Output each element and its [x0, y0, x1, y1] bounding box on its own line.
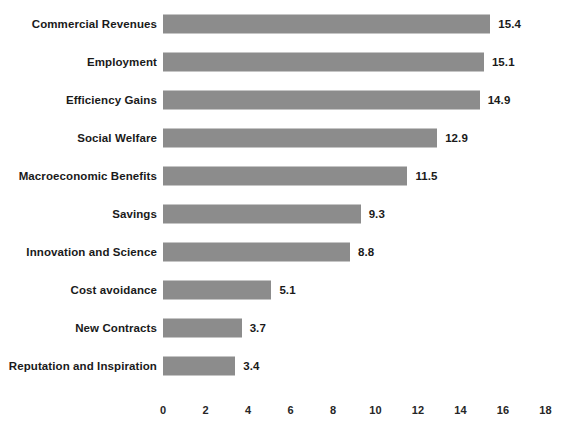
bar-row: Social Welfare12.9 — [0, 119, 585, 157]
bar-row: Innovation and Science8.8 — [0, 233, 585, 271]
bar — [163, 319, 242, 338]
bar-row: Cost avoidance5.1 — [0, 271, 585, 309]
bar — [163, 243, 350, 262]
bar — [163, 357, 235, 376]
bar-row: New Contracts3.7 — [0, 309, 585, 347]
bar-row: Savings9.3 — [0, 195, 585, 233]
x-axis-tick-label: 14 — [454, 404, 466, 416]
category-label: Social Welfare — [77, 132, 157, 144]
category-label: Commercial Revenues — [32, 18, 157, 30]
bar-fill — [163, 205, 361, 224]
bar — [163, 15, 490, 34]
bar — [163, 91, 480, 110]
bar-fill — [163, 167, 407, 186]
bar-chart: Commercial Revenues15.4Employment15.1Eff… — [0, 0, 585, 442]
category-label: Cost avoidance — [71, 284, 157, 296]
bar-row: Reputation and Inspiration3.4 — [0, 347, 585, 385]
bar-row: Commercial Revenues15.4 — [0, 5, 585, 43]
bar — [163, 281, 271, 300]
bar-value-label: 15.4 — [498, 18, 521, 30]
bar-fill — [163, 243, 350, 262]
bar — [163, 53, 484, 72]
bar-fill — [163, 319, 242, 338]
category-label: Macroeconomic Benefits — [19, 170, 157, 182]
x-axis-tick-label: 16 — [497, 404, 509, 416]
bar-fill — [163, 357, 235, 376]
bar-value-label: 15.1 — [492, 56, 515, 68]
x-axis-tick-label: 0 — [160, 404, 166, 416]
bar-value-label: 14.9 — [488, 94, 511, 106]
bar-value-label: 5.1 — [279, 284, 295, 296]
bar — [163, 129, 437, 148]
bar-value-label: 11.5 — [415, 170, 437, 182]
bar-value-label: 8.8 — [358, 246, 374, 258]
bar-row: Employment15.1 — [0, 43, 585, 81]
x-axis-tick-label: 12 — [412, 404, 424, 416]
x-axis-tick-label: 4 — [245, 404, 251, 416]
plot-area: Commercial Revenues15.4Employment15.1Eff… — [0, 0, 585, 442]
category-label: Reputation and Inspiration — [9, 360, 157, 372]
x-axis-tick-label: 10 — [369, 404, 381, 416]
bar-fill — [163, 129, 437, 148]
category-label: New Contracts — [75, 322, 157, 334]
category-label: Savings — [112, 208, 157, 220]
category-label: Efficiency Gains — [66, 94, 157, 106]
x-axis-tick-label: 6 — [287, 404, 293, 416]
category-label: Employment — [87, 56, 157, 68]
bar-fill — [163, 53, 484, 72]
x-axis-tick-label: 8 — [330, 404, 336, 416]
bar-fill — [163, 15, 490, 34]
bar-row: Macroeconomic Benefits11.5 — [0, 157, 585, 195]
category-label: Innovation and Science — [26, 246, 157, 258]
bar-value-label: 12.9 — [445, 132, 468, 144]
bar-value-label: 3.7 — [250, 322, 266, 334]
x-axis-tick-label: 18 — [539, 404, 551, 416]
x-axis-tick-label: 2 — [202, 404, 208, 416]
bar-fill — [163, 281, 271, 300]
bar-fill — [163, 91, 480, 110]
bar — [163, 167, 407, 186]
x-axis: 024681012141618 — [0, 404, 585, 424]
bar-value-label: 9.3 — [369, 208, 385, 220]
bar-value-label: 3.4 — [243, 360, 259, 372]
bar — [163, 205, 361, 224]
bar-row: Efficiency Gains14.9 — [0, 81, 585, 119]
